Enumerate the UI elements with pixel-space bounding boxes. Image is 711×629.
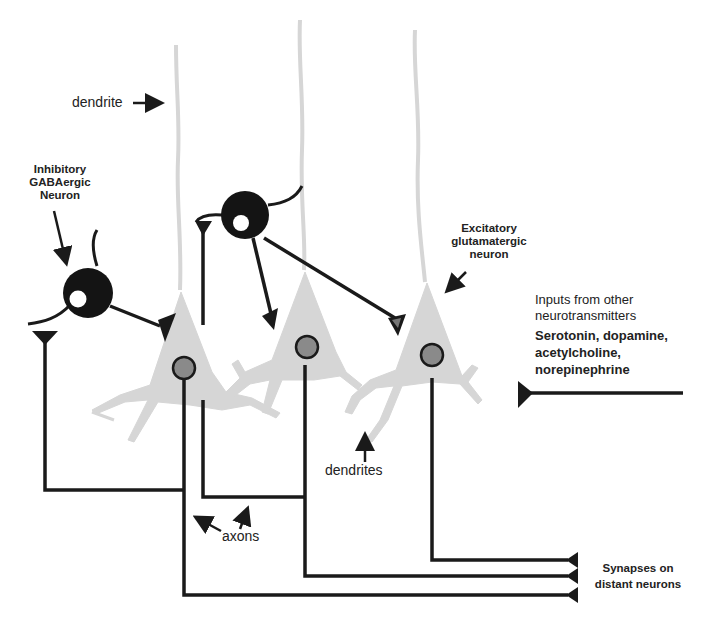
inputs-label-line-2: neurotransmitters bbox=[535, 308, 636, 324]
excitatory-neuron-label: Excitatory glutamatergic neuron bbox=[440, 222, 538, 262]
inhibitory-neuron-label: Inhibitory GABAergic Neuron bbox=[20, 163, 100, 203]
neuromodulators-line-2: acetylcholine, bbox=[535, 344, 668, 361]
synapses-label-line-2: distant neurons bbox=[583, 576, 693, 592]
nucleus-1 bbox=[173, 357, 195, 379]
dendrites-label: dendrites bbox=[325, 462, 383, 478]
neuromodulators-line-1: Serotonin, dopamine, bbox=[535, 327, 668, 344]
neuromodulator-input-terminal bbox=[518, 381, 533, 408]
synapses-label-line-1: Synapses on bbox=[583, 560, 693, 576]
nucleus-3 bbox=[421, 344, 443, 366]
excitatory-label-line-3: neuron bbox=[440, 248, 538, 261]
dendrite-label: dendrite bbox=[72, 94, 123, 110]
neuromodulators-line-3: norepinephrine bbox=[535, 361, 668, 378]
inputs-label: Inputs from other neurotransmitters bbox=[535, 292, 636, 324]
inhibitory-label-line-2: GABAergic bbox=[20, 176, 100, 189]
excitatory-label-line-1: Excitatory bbox=[440, 222, 538, 235]
excitatory-label-line-2: glutamatergic bbox=[440, 235, 538, 248]
inhibitory-label-line-1: Inhibitory bbox=[20, 163, 100, 176]
inhibitory-neuron-1 bbox=[28, 230, 176, 342]
inputs-label-line-1: Inputs from other bbox=[535, 292, 636, 308]
axons-label: axons bbox=[222, 528, 259, 544]
nucleus-2 bbox=[296, 336, 318, 358]
synapses-label: Synapses on distant neurons bbox=[583, 560, 693, 592]
neuromodulators-label: Serotonin, dopamine, acetylcholine, nore… bbox=[535, 327, 668, 378]
inhibitory-label-line-3: Neuron bbox=[20, 189, 100, 202]
